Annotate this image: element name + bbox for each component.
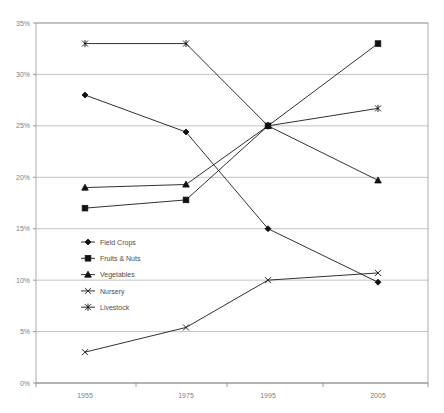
legend-label-3: Nursery [100,288,125,296]
legend-label-0: Field Crops [100,239,136,247]
x-tick-label-1975: 1975 [178,392,194,399]
y-tick-label-30%: 30% [16,71,30,78]
x-tick-label-1955: 1955 [77,392,93,399]
legend-item-field-crops[interactable]: Field Crops [81,239,136,247]
datapoint-field-crops-1955 [82,92,88,98]
series-vegetables [82,122,382,190]
legend-label-4: Livestock [100,304,130,311]
plot-frame [36,23,428,383]
datapoint-vegetables-1975 [183,181,190,187]
y-tick-label-10%: 10% [16,277,30,284]
x-tick-label-1995: 1995 [260,392,276,399]
series-line-3 [85,273,378,352]
series-livestock [82,40,381,129]
legend-label-2: Vegetables [100,271,135,279]
legend-marker-square [85,256,91,262]
y-tick-label-35%: 35% [16,20,30,27]
legend-item-fruits-nuts[interactable]: Fruits & Nuts [81,255,141,262]
datapoint-nursery-1955 [82,349,88,355]
y-tick-label-25%: 25% [16,122,30,129]
y-tick-label-0%: 0% [20,380,30,387]
y-tick-label-20%: 20% [16,174,30,181]
legend-item-livestock[interactable]: Livestock [81,304,130,311]
datapoint-fruits-nuts-1955 [82,205,88,211]
legend-item-vegetables[interactable]: Vegetables [81,271,135,279]
legend-item-nursery[interactable]: Nursery [81,288,125,296]
series-line-4 [85,44,378,126]
legend-marker-diamond [85,239,91,245]
line-chart: 0%5%10%15%20%25%30%35%1955197519952005Fi… [0,0,444,413]
y-tick-label-5%: 5% [20,328,30,335]
datapoint-fruits-nuts-2005 [375,41,381,47]
datapoint-fruits-nuts-1975 [183,197,189,203]
datapoint-vegetables-2005 [375,177,382,183]
legend: Field CropsFruits & NutsVegetablesNurser… [81,239,141,311]
datapoint-nursery-1975 [183,324,189,330]
series-nursery [82,270,381,355]
x-tick-label-2005: 2005 [370,392,386,399]
legend-label-1: Fruits & Nuts [100,255,141,262]
series-line-2 [85,126,378,188]
chart-canvas: 0%5%10%15%20%25%30%35%1955197519952005Fi… [0,0,444,413]
y-tick-label-15%: 15% [16,225,30,232]
